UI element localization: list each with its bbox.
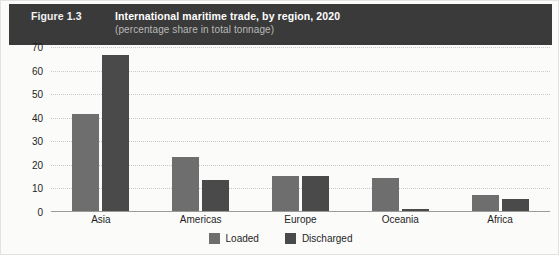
y-axis-tick-label: 70 bbox=[32, 42, 43, 53]
x-axis-label-oceania: Oceania bbox=[350, 214, 450, 225]
y-axis-tick-label: 0 bbox=[37, 207, 43, 218]
bar-group-europe bbox=[251, 47, 351, 211]
y-axis: 706050403020100 bbox=[1, 47, 49, 212]
bar-americas-loaded[interactable] bbox=[172, 157, 199, 211]
x-axis-label-africa: Africa bbox=[450, 214, 550, 225]
x-axis-label-asia: Asia bbox=[51, 214, 151, 225]
y-axis-tick-label: 30 bbox=[32, 136, 43, 147]
figure-container: Figure 1.3 International maritime trade,… bbox=[0, 0, 559, 255]
x-axis-label-europe: Europe bbox=[251, 214, 351, 225]
legend-label: Loaded bbox=[226, 233, 259, 244]
bar-africa-loaded[interactable] bbox=[472, 195, 499, 212]
legend-item-discharged[interactable]: Discharged bbox=[285, 233, 353, 244]
x-axis-label-americas: Americas bbox=[151, 214, 251, 225]
bar-group-oceania bbox=[350, 47, 450, 211]
y-axis-tick-label: 50 bbox=[32, 89, 43, 100]
figure-title-row: Figure 1.3 International maritime trade,… bbox=[31, 10, 544, 22]
bar-asia-discharged[interactable] bbox=[102, 55, 129, 211]
figure-header-content: Figure 1.3 International maritime trade,… bbox=[31, 10, 544, 35]
bar-groups bbox=[51, 47, 550, 211]
figure-header-bar: Figure 1.3 International maritime trade,… bbox=[9, 4, 552, 45]
x-axis-labels: AsiaAmericasEuropeOceaniaAfrica bbox=[51, 214, 550, 225]
x-axis-line bbox=[51, 211, 550, 212]
bar-asia-loaded[interactable] bbox=[72, 114, 99, 211]
y-axis-tick-label: 60 bbox=[32, 65, 43, 76]
y-axis-tick-label: 10 bbox=[32, 183, 43, 194]
legend-swatch-icon bbox=[209, 233, 220, 244]
bar-europe-loaded[interactable] bbox=[272, 176, 299, 211]
bar-europe-discharged[interactable] bbox=[302, 176, 329, 211]
figure-number: Figure 1.3 bbox=[31, 10, 115, 22]
chart-area: 706050403020100 AsiaAmericasEuropeOceani… bbox=[1, 47, 559, 255]
bar-group-africa bbox=[450, 47, 550, 211]
legend-label: Discharged bbox=[302, 233, 353, 244]
y-axis-tick-label: 20 bbox=[32, 159, 43, 170]
bar-group-americas bbox=[151, 47, 251, 211]
bar-oceania-loaded[interactable] bbox=[372, 178, 399, 211]
figure-subtitle: (percentage share in total tonnage) bbox=[115, 24, 544, 35]
legend-swatch-icon bbox=[285, 233, 296, 244]
figure-title: International maritime trade, by region,… bbox=[115, 10, 340, 22]
bar-group-asia bbox=[51, 47, 151, 211]
bar-americas-discharged[interactable] bbox=[202, 180, 229, 211]
bar-africa-discharged[interactable] bbox=[502, 199, 529, 211]
chart-legend: LoadedDischarged bbox=[1, 233, 559, 244]
plot-region bbox=[51, 47, 550, 212]
legend-item-loaded[interactable]: Loaded bbox=[209, 233, 259, 244]
y-axis-tick-label: 40 bbox=[32, 112, 43, 123]
